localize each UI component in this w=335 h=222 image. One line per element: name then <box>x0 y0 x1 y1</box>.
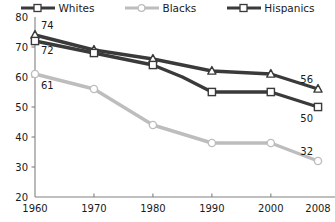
x-tick-label: 2000 <box>258 203 283 214</box>
data-point-marker <box>90 49 97 56</box>
data-point-label: 61 <box>41 80 54 91</box>
data-point-marker <box>149 121 156 128</box>
y-tick-label: 80 <box>15 12 28 23</box>
data-point-label: 74 <box>41 20 54 31</box>
data-point-marker <box>267 88 274 95</box>
plot-area: 80706050403020 196019701980199020002008 … <box>0 0 335 222</box>
series-line-blacks <box>35 74 318 161</box>
data-series-group <box>31 31 322 165</box>
data-point-marker <box>267 139 274 146</box>
y-tick-label: 50 <box>15 102 28 113</box>
x-tick-label: 1960 <box>22 203 47 214</box>
y-tick-label: 40 <box>15 132 28 143</box>
data-point-marker <box>314 103 321 110</box>
data-point-marker <box>31 37 38 44</box>
data-point-marker <box>208 88 215 95</box>
x-axis: 196019701980199020002008 <box>22 194 335 215</box>
data-point-marker <box>31 70 38 77</box>
x-tick-label: 1990 <box>199 203 224 214</box>
x-tick-label: 1970 <box>81 203 106 214</box>
x-tick-label: 1980 <box>140 203 165 214</box>
data-point-marker <box>314 157 321 164</box>
line-chart: Whites Blacks Hispanics 80706050403020 1… <box>0 0 335 222</box>
data-point-label: 32 <box>300 146 313 157</box>
data-point-marker <box>149 61 156 68</box>
data-point-marker <box>90 85 97 92</box>
data-point-label: 56 <box>300 74 313 85</box>
data-point-marker <box>208 139 215 146</box>
series-line-hispanics <box>35 35 318 89</box>
y-tick-label: 60 <box>15 72 28 83</box>
y-tick-label: 30 <box>15 162 28 173</box>
data-point-label: 50 <box>300 113 313 124</box>
y-tick-label: 20 <box>15 192 28 203</box>
y-tick-label: 70 <box>15 42 28 53</box>
data-point-label: 72 <box>41 45 54 56</box>
x-tick-label: 2008 <box>305 203 330 214</box>
